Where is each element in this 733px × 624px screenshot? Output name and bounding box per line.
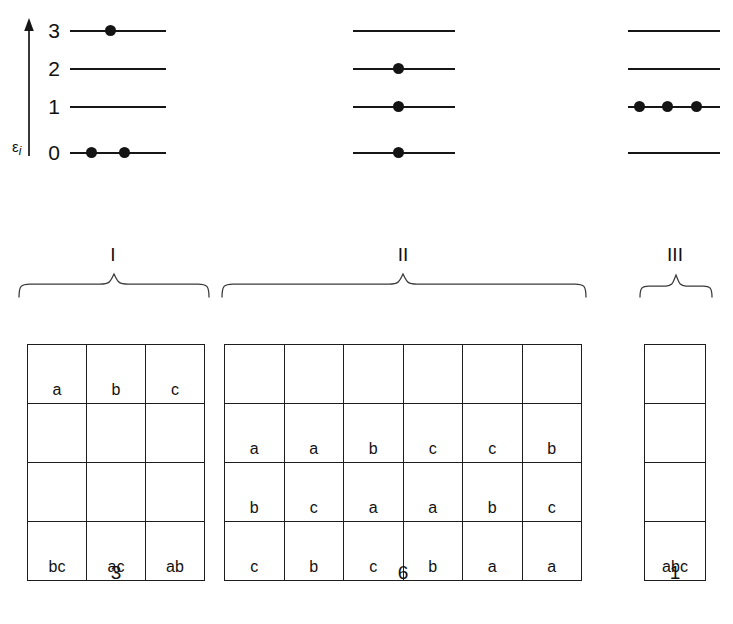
table-II-cell-r1-c2: b [344,404,404,463]
epsilon-symbol: ε [12,138,19,155]
energy-axis-arrow [22,18,36,158]
energy-axis-label: εi [12,138,21,158]
level-number-3: 3 [42,20,60,41]
table-I-cell-r0-c0: a [28,345,87,404]
diagram-II-level-1-line [353,106,455,108]
diagram-I-level-2-line [70,68,166,70]
brace-label-II: II [383,245,423,264]
level-number-0: 0 [42,142,60,163]
table-II-cell-r1-c5: b [522,404,582,463]
diagram-I-level-3-line [70,30,166,32]
table-II-cell-r2-c1: c [284,463,344,522]
diagram-II-level-2-line [353,68,455,70]
diagram-I-level-0-line [70,152,166,154]
table-I-cell-r0-c1: b [87,345,146,404]
table-I-cell-r1-c1 [87,404,146,463]
table-II-cell-r0-c5 [522,345,582,404]
table-I-row [28,404,205,463]
table-II-cell-r3-c0: c [225,522,285,581]
diagram-III-level-3-line [628,30,720,32]
diagram-I-level-3-dot-1 [105,25,116,36]
table-I-cell-r3-c2: ab [146,522,205,581]
microstate-count-III: 1 [645,563,705,582]
diagram-III-level-0-line [628,152,720,154]
brace-II [221,272,587,298]
table-II-cell-r2-c0: b [225,463,285,522]
table-II-cell-r2-c4: b [463,463,523,522]
microstate-table-I: abcbcacab [27,344,205,581]
table-II-cell-r2-c3: a [403,463,463,522]
diagram-II-level-0-line [353,152,455,154]
table-II-cell-r3-c5: a [522,522,582,581]
table-II-cell-r0-c1 [284,345,344,404]
epsilon-subscript: i [19,144,22,158]
table-III-cell-r2-c0 [645,463,706,522]
diagram-III-level-1-dot-2 [662,101,673,112]
table-II-cell-r2-c2: a [344,463,404,522]
table-III-row [645,345,706,404]
brace-I [18,272,210,298]
diagram-I-level-1-line [70,106,166,108]
brace-label-III: III [655,245,695,264]
brace-label-I: I [93,245,133,264]
table-II-cell-r1-c0: a [225,404,285,463]
diagram-II-level-3-line [353,30,455,32]
table-I-cell-r2-c2 [146,463,205,522]
table-I-row: abc [28,345,205,404]
table-I-cell-r2-c1 [87,463,146,522]
diagram-III-level-1-dot-3 [691,101,702,112]
table-II-row: bcaabc [225,463,582,522]
microstate-table-III: abc [644,344,706,581]
table-II-cell-r2-c5: c [522,463,582,522]
table-II-cell-r0-c4 [463,345,523,404]
figure-root: εi 3 2 1 0 I II III [0,0,733,624]
diagram-II-level-2-dot-1 [393,63,404,74]
table-III-row [645,463,706,522]
table-I-cell-r3-c0: bc [28,522,87,581]
table-I-cell-r1-c2 [146,404,205,463]
table-II-cell-r0-c0 [225,345,285,404]
table-III-cell-r1-c0 [645,404,706,463]
table-II-cell-r1-c3: c [403,404,463,463]
diagram-II-level-0-dot-1 [393,147,404,158]
table-I-row [28,463,205,522]
brace-III [639,272,713,298]
diagram-III-level-2-line [628,68,720,70]
table-III-cell-r0-c0 [645,345,706,404]
diagram-I-level-0-dot-1 [86,147,97,158]
table-I-cell-r2-c0 [28,463,87,522]
table-III-row [645,404,706,463]
table-II-cell-r3-c1: b [284,522,344,581]
microstate-count-II: 6 [373,563,433,582]
diagram-III-level-1-dot-1 [634,101,645,112]
table-II-cell-r0-c2 [344,345,404,404]
diagram-II-level-1-dot-1 [393,101,404,112]
microstate-table-II: aabccbbcaabccbcbaa [224,344,582,581]
level-number-2: 2 [42,58,60,79]
table-II-row: aabccb [225,404,582,463]
table-II-cell-r0-c3 [403,345,463,404]
table-I-cell-r1-c0 [28,404,87,463]
table-II-cell-r3-c4: a [463,522,523,581]
table-I-cell-r0-c2: c [146,345,205,404]
microstate-count-I: 3 [86,563,146,582]
table-II-cell-r1-c4: c [463,404,523,463]
table-II-cell-r1-c1: a [284,404,344,463]
level-number-1: 1 [42,96,60,117]
diagram-I-level-0-dot-2 [119,147,130,158]
table-II-row [225,345,582,404]
